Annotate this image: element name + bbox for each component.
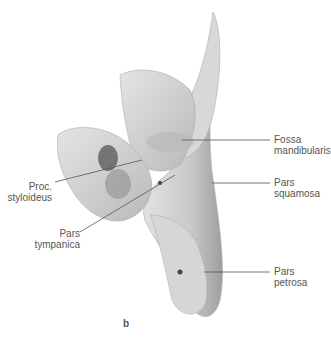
label-line: petrosa [274, 277, 307, 288]
label-line: Proc. [2, 181, 52, 192]
subfigure-label: b [123, 318, 129, 329]
label-pars-squamosa: Pars squamosa [274, 177, 320, 199]
label-line: styloideus [2, 192, 52, 203]
label-line: mandibularis [274, 145, 331, 156]
label-pars-tympanica: Pars tympanica [20, 228, 80, 250]
label-line: squamosa [274, 188, 320, 199]
label-line: tympanica [20, 239, 80, 250]
label-proc-styloideus: Proc. styloideus [2, 181, 52, 203]
label-line: Pars [274, 266, 307, 277]
label-line: Pars [20, 228, 80, 239]
label-line: Fossa [274, 134, 331, 145]
label-pars-petrosa: Pars petrosa [274, 266, 307, 288]
label-fossa-mandibularis: Fossa mandibularis [274, 134, 331, 156]
label-line: Pars [274, 177, 320, 188]
